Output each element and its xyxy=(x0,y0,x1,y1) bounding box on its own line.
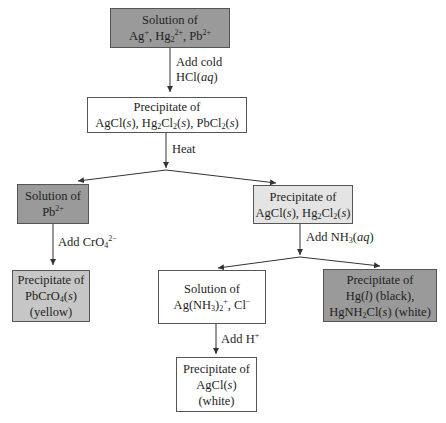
node-hg-line1: Precipitate of xyxy=(347,272,414,288)
edge-label-add-h: Add H+ xyxy=(221,332,259,347)
node-ag-line1: Solution of xyxy=(184,281,240,297)
node-agcl-line1: Precipitate of xyxy=(183,361,250,377)
node-ppt1-line1: Precipitate of xyxy=(134,99,201,115)
node-ppt2-line2: AgCl(s), Hg2Cl2(s) xyxy=(256,205,351,221)
branch-right-hg xyxy=(300,257,380,266)
node-pbcro4-line2: PbCrO4(s) xyxy=(25,288,77,304)
node-agcl-line2: AgCl(s) xyxy=(196,377,236,393)
node-ppt1-line2: AgCl(s), Hg2Cl2(s), PbCl2(s) xyxy=(95,115,238,131)
node-agcl-line3: (white) xyxy=(198,393,234,409)
node-precipitate-group1: Precipitate of AgCl(s), Hg2Cl2(s), PbCl2… xyxy=(87,97,247,133)
branch-left-ag xyxy=(218,257,300,268)
node-pbcro4-precipitate: Precipitate of PbCrO4(s) (yellow) xyxy=(12,270,90,322)
edge-label-heat: Heat xyxy=(172,142,196,157)
edge-label-add-cold: Add cold xyxy=(176,55,222,70)
edge-label-add-cold-hcl: Add cold HCl(aq) xyxy=(176,55,222,85)
edge-label-add-cro4: Add CrO42− xyxy=(58,235,117,250)
node-precipitate-agcl-hg2cl2: Precipitate of AgCl(s), Hg2Cl2(s) xyxy=(253,185,353,224)
node-start-solution: Solution of Ag+, Hg22+, Pb2+ xyxy=(110,8,230,48)
node-ppt2-line1: Precipitate of xyxy=(270,189,337,205)
node-agcl-precipitate: Precipitate of AgCl(s) (white) xyxy=(176,357,257,412)
node-ag-ammine-solution: Solution of Ag(NH3)2+, Cl− xyxy=(158,270,266,324)
branch-left-pb xyxy=(78,170,166,181)
node-pb-line1: Solution of xyxy=(25,188,81,204)
node-pbcro4-line1: Precipitate of xyxy=(18,272,85,288)
node-hg-line2: Hg(l) (black), xyxy=(346,288,415,304)
node-hg-line3: HgNH2Cl(s) (white) xyxy=(329,304,431,320)
node-pb-line2: Pb2+ xyxy=(42,204,64,220)
node-hg-precipitate: Precipitate of Hg(l) (black), HgNH2Cl(s)… xyxy=(323,269,437,322)
edge-label-hcl: HCl(aq) xyxy=(176,70,222,85)
branch-right-ppt2 xyxy=(166,170,276,183)
node-start-line1: Solution of xyxy=(142,12,198,28)
node-pbcro4-line3: (yellow) xyxy=(30,304,72,320)
node-pb-solution: Solution of Pb2+ xyxy=(17,184,89,224)
edge-label-add-nh3: Add NH3(aq) xyxy=(306,230,374,245)
node-ag-line2: Ag(NH3)2+, Cl− xyxy=(174,297,251,313)
node-start-line2: Ag+, Hg22+, Pb2+ xyxy=(129,28,211,44)
